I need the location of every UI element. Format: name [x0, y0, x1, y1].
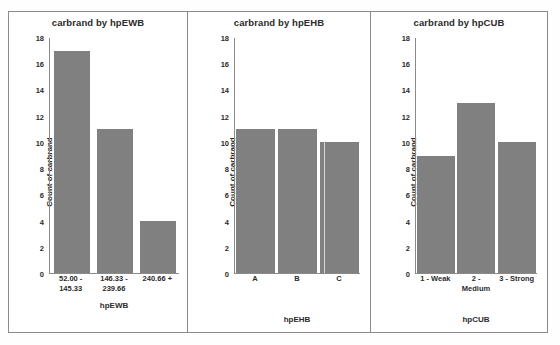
x-tick-label: 3 - Strong	[496, 274, 537, 314]
panel-title: carbrand by hpCUB	[371, 17, 547, 28]
chart-panel-hpCUB: carbrand by hpCUB Count of carbrand 0246…	[371, 12, 547, 332]
y-tick-label: 14	[221, 86, 229, 95]
y-tick-label: 16	[402, 60, 410, 69]
bar[interactable]	[278, 129, 317, 273]
x-tick-label: 2 -Medium	[456, 274, 497, 314]
x-tick-group: 1 - Weak2 -Medium3 - Strong	[415, 274, 537, 314]
chart-figure: carbrand by hpEWB Count of carbrand 0246…	[0, 0, 560, 345]
y-tick-label: 6	[406, 191, 410, 200]
bar[interactable]	[417, 156, 455, 274]
x-tick-label: C	[318, 274, 360, 314]
bar-slot	[235, 38, 277, 273]
y-tick-label: 18	[36, 34, 44, 43]
bar-slot	[136, 38, 179, 273]
y-tick-label: 12	[402, 112, 410, 121]
bar-slot	[93, 38, 136, 273]
bar-slot	[50, 38, 93, 273]
y-tick-label: 0	[225, 270, 229, 279]
x-tick-label: B	[276, 274, 318, 314]
panel-title: carbrand by hpEHB	[188, 17, 370, 28]
y-tick-label: 2	[225, 243, 229, 252]
bar-group	[50, 38, 179, 273]
bar[interactable]	[236, 129, 275, 273]
y-tick-label: 2	[406, 243, 410, 252]
x-tick-group: ABC	[234, 274, 360, 314]
bar[interactable]	[54, 51, 90, 273]
bar[interactable]	[457, 103, 495, 273]
y-tick-label: 16	[36, 60, 44, 69]
y-tick-label: 6	[40, 191, 44, 200]
panel-title: carbrand by hpEWB	[9, 17, 187, 28]
y-tick-label: 4	[225, 217, 229, 226]
chart-panel-hpEHB: carbrand by hpEHB Count of carbrand 0246…	[187, 12, 371, 332]
bar[interactable]	[140, 221, 176, 273]
panel-container: carbrand by hpEWB Count of carbrand 0246…	[9, 12, 547, 332]
y-tick-label: 0	[40, 270, 44, 279]
x-axis-label: hpEHB	[234, 315, 360, 324]
y-tick-label: 18	[402, 34, 410, 43]
y-tick-label: 0	[406, 270, 410, 279]
y-tick-label: 12	[36, 112, 44, 121]
y-tick-label: 14	[36, 86, 44, 95]
bar-slot	[456, 38, 496, 273]
bar[interactable]	[97, 129, 133, 273]
bar-slot	[497, 38, 537, 273]
plot-area-2: 024681012141618	[415, 38, 537, 274]
bar-slot	[318, 38, 360, 273]
bar-slot	[416, 38, 456, 273]
bar[interactable]	[320, 142, 359, 273]
bar-slot	[277, 38, 319, 273]
bar-group	[416, 38, 537, 273]
x-axis-label: hpCUB	[415, 315, 537, 324]
y-tick-label: 6	[225, 191, 229, 200]
y-tick-label: 4	[406, 217, 410, 226]
x-tick-label: 1 - Weak	[415, 274, 456, 314]
bar-group	[235, 38, 360, 273]
plot-area-1: 024681012141618	[234, 38, 360, 274]
y-tick-label: 8	[225, 165, 229, 174]
y-tick-label: 10	[36, 138, 44, 147]
y-tick-label: 8	[40, 165, 44, 174]
y-tick-label: 10	[221, 138, 229, 147]
y-tick-label: 12	[221, 112, 229, 121]
x-axis-label: hpEWB	[49, 301, 179, 310]
y-tick-label: 4	[40, 217, 44, 226]
y-tick-label: 10	[402, 138, 410, 147]
chart-panel-hpEWB: carbrand by hpEWB Count of carbrand 0246…	[9, 12, 187, 332]
x-tick-label: A	[234, 274, 276, 314]
y-tick-label: 2	[40, 243, 44, 252]
bar[interactable]	[498, 142, 536, 273]
y-tick-label: 14	[402, 86, 410, 95]
y-tick-label: 16	[221, 60, 229, 69]
plot-area-0: 024681012141618	[49, 38, 179, 274]
y-tick-label: 18	[221, 34, 229, 43]
y-tick-label: 8	[406, 165, 410, 174]
